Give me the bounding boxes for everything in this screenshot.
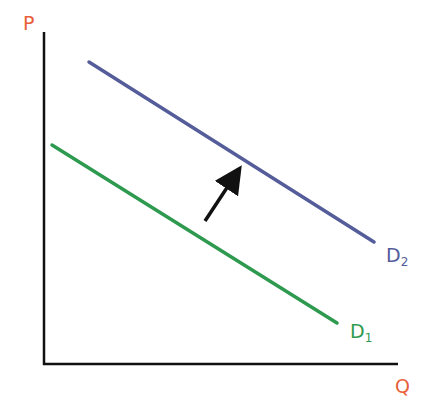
y-axis-label: P [23,12,34,34]
d2-label-sub: 2 [401,255,409,269]
d1-label: D1 [350,320,372,345]
demand-curve-d1 [52,145,337,323]
shift-arrow-icon [205,174,236,221]
d1-label-name: D [350,320,365,342]
demand-curve-d2 [89,62,374,242]
d2-label-name: D [386,244,401,266]
x-axis-label: Q [395,375,410,397]
d1-label-sub: 1 [365,331,373,345]
d2-label: D2 [386,244,408,269]
demand-shift-diagram [0,0,431,411]
